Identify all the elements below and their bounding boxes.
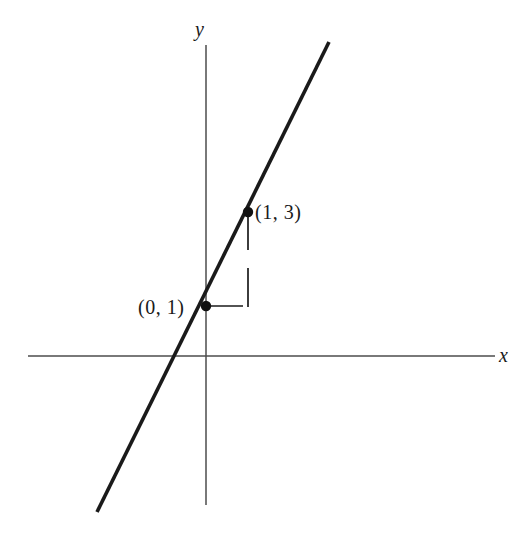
- x-axis-label: x: [499, 345, 508, 365]
- point-label-second-point: (1, 3): [255, 202, 301, 222]
- plotted-line: [97, 42, 329, 512]
- point-marker-y-intercept: [201, 301, 211, 311]
- point-marker-second-point: [243, 207, 253, 217]
- y-axis-label: y: [195, 19, 204, 39]
- point-label-y-intercept: (0, 1): [138, 297, 184, 317]
- line-graph-figure: y x (0, 1) (1, 3): [0, 0, 529, 542]
- graph-canvas: [0, 0, 529, 542]
